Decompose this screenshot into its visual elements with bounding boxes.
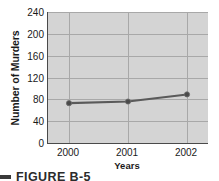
figure-caption: FIGURE B-5 <box>0 172 219 181</box>
y-tick-label: 240 <box>12 7 44 18</box>
y-tick-label: 80 <box>12 94 44 105</box>
y-tick-label: 0 <box>12 138 44 149</box>
plot-area <box>47 12 208 144</box>
y-tick-label: 120 <box>12 72 44 83</box>
data-series-line <box>48 12 208 143</box>
y-axis-tick-labels: 240 200 160 120 80 40 0 <box>12 0 44 150</box>
y-tick-label: 160 <box>12 50 44 61</box>
caption-label: FIGURE B-5 <box>16 172 91 181</box>
data-point-marker <box>125 99 130 104</box>
caption-rule-icon <box>0 175 11 179</box>
y-tick-label: 200 <box>12 28 44 39</box>
y-tick-label: 40 <box>12 116 44 127</box>
x-tick-label: 2002 <box>163 147 209 158</box>
x-tick-label: 2001 <box>104 147 150 158</box>
x-tick-label: 2000 <box>45 147 91 158</box>
x-axis-title: Years <box>47 160 207 171</box>
data-point-marker <box>66 101 71 106</box>
figure-chart: Number of Murders 240 200 160 120 80 40 … <box>0 0 219 181</box>
data-point-marker <box>184 92 189 97</box>
